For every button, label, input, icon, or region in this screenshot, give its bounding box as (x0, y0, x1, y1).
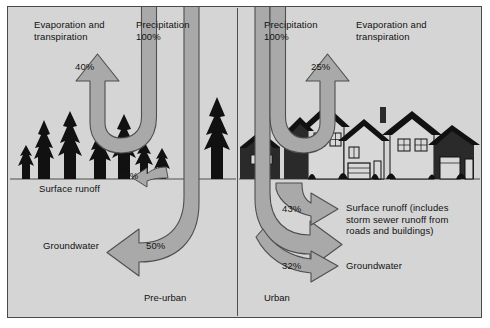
pre-urban-groundwater-label: Groundwater (43, 240, 99, 252)
pre-urban-groundwater-value: 50% (146, 240, 165, 251)
urban-surface-runoff-value: 43% (282, 203, 301, 214)
diagram-frame: Evaporation and transpiration Precipitat… (7, 6, 482, 318)
pre-urban-evapotranspiration-value: 40% (75, 61, 94, 72)
pre-urban-surface-runoff-label: Surface runoff (39, 183, 100, 195)
urban-evaporation-label: Evaporation and transpiration (356, 19, 460, 42)
pre-urban-evaporation-label: Evaporation and transpiration (34, 19, 134, 42)
urban-caption: Urban (264, 292, 290, 303)
diagram-page: Evaporation and transpiration Precipitat… (0, 0, 490, 328)
diagram-canvas (8, 7, 481, 317)
urban-groundwater-label: Groundwater (346, 260, 402, 272)
pre-urban-panel (10, 7, 236, 276)
pre-urban-caption: Pre-urban (144, 292, 186, 303)
urban-evapotranspiration-value: 25% (311, 61, 330, 72)
urban-surface-runoff-label: Surface runoff (includes storm sewer run… (346, 202, 482, 237)
urban-panel (239, 7, 480, 282)
urban-groundwater-value: 32% (282, 260, 301, 271)
pre-urban-surface-runoff-value: 10% (119, 170, 138, 181)
urban-precipitation-label: Precipitation 100% (264, 19, 356, 42)
pre-urban-precipitation-label: Precipitation 100% (136, 19, 228, 42)
